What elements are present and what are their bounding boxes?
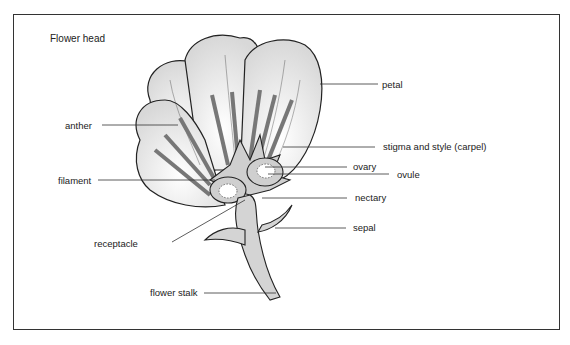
sepals-stalk [205, 195, 292, 300]
flower-illustration [0, 0, 570, 345]
label-petal: petal [382, 79, 403, 90]
label-nectary: nectary [355, 192, 386, 203]
label-stigma-style: stigma and style (carpel) [383, 141, 486, 152]
label-receptacle: receptacle [94, 238, 138, 249]
label-filament: filament [58, 175, 91, 186]
label-sepal: sepal [353, 222, 376, 233]
label-ovule: ovule [397, 169, 420, 180]
label-flower-stalk: flower stalk [150, 287, 198, 298]
label-ovary: ovary [353, 161, 376, 172]
label-anther: anther [65, 120, 92, 131]
